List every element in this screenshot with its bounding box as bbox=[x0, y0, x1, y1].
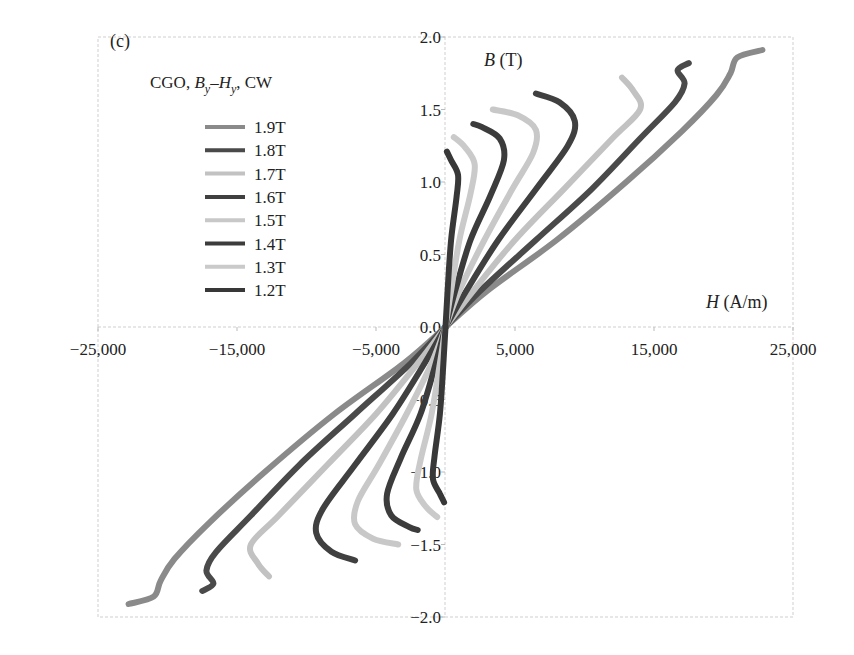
legend-item: 1.9T bbox=[205, 118, 286, 137]
x-tick-label: 15,000 bbox=[631, 340, 678, 359]
y-tick-label: 1.0 bbox=[420, 173, 441, 192]
x-tick-label: 25,000 bbox=[770, 340, 817, 359]
curve-upper-branch bbox=[446, 78, 642, 327]
legend-label: 1.9T bbox=[254, 118, 286, 137]
legend-title-b: B bbox=[194, 73, 205, 92]
legend-item: 1.5T bbox=[205, 211, 286, 230]
chart-svg: (c) −25,000−15,000−5,0005,00015,00025,00… bbox=[0, 0, 854, 655]
curve-upper-branch bbox=[446, 63, 689, 327]
legend-item: 1.8T bbox=[205, 141, 286, 160]
curve-lower-branch bbox=[202, 327, 445, 591]
y-axis-title-unit: (T) bbox=[495, 50, 522, 71]
y-tick-label: −2.0 bbox=[410, 608, 441, 627]
legend-label: 1.4T bbox=[254, 235, 286, 254]
legend-item: 1.7T bbox=[205, 165, 286, 184]
x-tick-label: −5,000 bbox=[352, 340, 400, 359]
legend-item: 1.3T bbox=[205, 258, 286, 277]
legend-label: 1.5T bbox=[254, 211, 286, 230]
legend-label: 1.3T bbox=[254, 258, 286, 277]
legend-title-prefix: CGO, bbox=[150, 73, 194, 92]
y-axis-title-var: B bbox=[484, 50, 495, 70]
y-tick-label: 1.5 bbox=[420, 101, 441, 120]
x-tick-label: 5,000 bbox=[496, 340, 534, 359]
legend-label: 1.2T bbox=[254, 281, 286, 300]
legend-title: CGO, By–Hy, CW bbox=[150, 73, 273, 96]
legend-title-suffix: , CW bbox=[236, 73, 273, 92]
y-tick-label: 0.5 bbox=[420, 246, 441, 265]
x-tick-label: −25,000 bbox=[70, 340, 126, 359]
legend-item: 1.4T bbox=[205, 235, 286, 254]
legend: 1.9T1.8T1.7T1.6T1.5T1.4T1.3T1.2T bbox=[205, 118, 286, 300]
legend-title-dash: – bbox=[209, 73, 219, 92]
legend-label: 1.7T bbox=[254, 165, 286, 184]
x-axis-title-unit: (A/m) bbox=[719, 292, 768, 313]
y-axis-title: B (T) bbox=[484, 50, 522, 71]
x-axis-title: H (A/m) bbox=[705, 292, 768, 313]
x-tick-label: −15,000 bbox=[209, 340, 265, 359]
legend-item: 1.6T bbox=[205, 188, 286, 207]
legend-item: 1.2T bbox=[205, 281, 286, 300]
legend-label: 1.8T bbox=[254, 141, 286, 160]
panel-label: (c) bbox=[110, 31, 130, 52]
x-axis-title-var: H bbox=[705, 292, 720, 312]
y-tick-label: 2.0 bbox=[420, 28, 441, 47]
y-tick-label: −1.5 bbox=[410, 536, 441, 555]
legend-label: 1.6T bbox=[254, 188, 286, 207]
